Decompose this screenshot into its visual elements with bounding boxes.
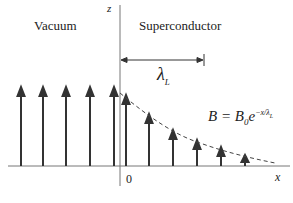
z-axis-label: z <box>107 2 111 14</box>
decay-equation: B = B0e−x/λL <box>208 108 273 127</box>
lambda-l-label: λL <box>157 64 170 87</box>
superconductor-label: Superconductor <box>139 18 221 34</box>
x-axis-label: x <box>275 170 280 185</box>
equation-exponent: −x/λ <box>255 108 270 117</box>
equation-lhs: B = B <box>208 108 244 124</box>
lambda-symbol: λ <box>157 64 165 84</box>
vacuum-label: Vacuum <box>34 18 77 34</box>
vacuum-field-arrows <box>18 87 118 166</box>
origin-label: 0 <box>126 172 132 187</box>
lambda-subscript: L <box>165 77 170 87</box>
equation-exponent-subscript: L <box>270 113 273 119</box>
superconductor-field-arrows <box>123 95 249 166</box>
